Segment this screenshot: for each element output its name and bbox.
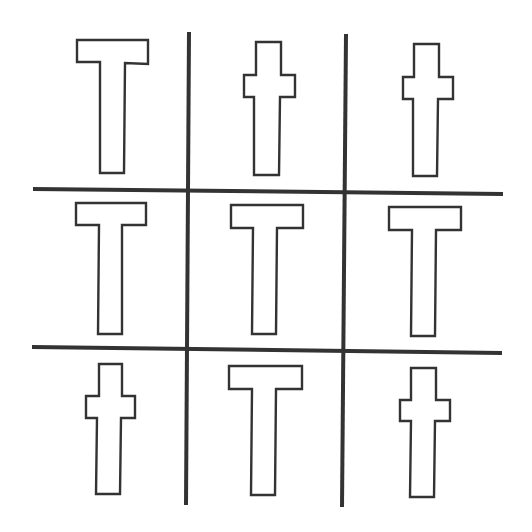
horizontal-grid-line-1 [33, 189, 503, 194]
cross-shape-icon-r2c0 [86, 364, 135, 494]
cross-shape-icon-r2c2 [400, 368, 450, 497]
t-shape-icon-r2c1 [229, 366, 302, 495]
diagram-canvas [0, 0, 532, 532]
vertical-grid-line-1 [186, 32, 189, 505]
vertical-grid-line-2 [342, 34, 346, 507]
cross-shape-icon-r0c2 [403, 44, 453, 176]
cell-shapes [76, 40, 461, 497]
t-shape-icon-r1c2 [389, 207, 461, 336]
grid-diagram [0, 0, 532, 532]
t-shape-icon-r1c0 [76, 203, 146, 334]
cross-shape-icon-r0c1 [244, 42, 295, 175]
horizontal-grid-line-2 [32, 347, 502, 353]
t-shape-icon-r1c1 [231, 205, 303, 334]
t-shape-icon-r0c0 [77, 40, 148, 173]
